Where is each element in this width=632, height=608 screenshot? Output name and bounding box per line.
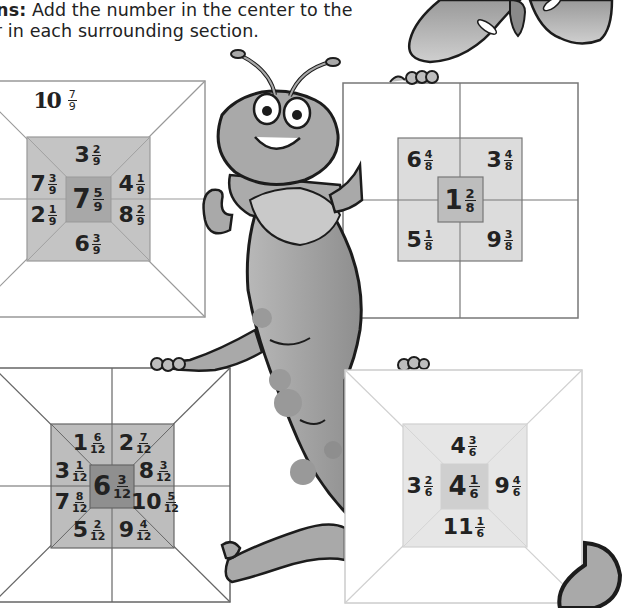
fraction: 28 bbox=[465, 187, 476, 214]
denominator: 9 bbox=[93, 156, 101, 167]
fraction: 112 bbox=[72, 460, 87, 483]
section-number-top-left: 648 bbox=[407, 149, 434, 172]
fraction: 412 bbox=[136, 519, 151, 542]
whole-number: 10 bbox=[33, 89, 60, 111]
denominator: 12 bbox=[72, 472, 87, 483]
numerator: 3 bbox=[504, 229, 514, 241]
whole-number: 2 bbox=[31, 204, 46, 226]
numerator: 3 bbox=[48, 173, 58, 185]
numerator: 2 bbox=[465, 187, 476, 201]
whole-number: 9 bbox=[495, 475, 510, 497]
denominator: 12 bbox=[136, 531, 151, 542]
numerator: 1 bbox=[424, 229, 434, 241]
numerator: 4 bbox=[139, 519, 149, 531]
section-number-top: 436 bbox=[451, 435, 478, 458]
denominator: 6 bbox=[470, 487, 479, 500]
section-number-top: 329 bbox=[75, 144, 102, 167]
denominator: 9 bbox=[137, 185, 145, 196]
denominator: 8 bbox=[505, 161, 513, 172]
butterfly-illustration bbox=[409, 0, 612, 62]
section-number-top-right: 348 bbox=[487, 149, 514, 172]
section-number-top-right: 2712 bbox=[119, 432, 152, 455]
numerator: 2 bbox=[424, 475, 434, 487]
numerator: 6 bbox=[93, 432, 103, 444]
numerator: 3 bbox=[468, 435, 478, 447]
whole-number: 9 bbox=[487, 229, 502, 251]
numerator: 4 bbox=[424, 149, 434, 161]
section-number-lower-left: 219 bbox=[31, 204, 58, 227]
numerator: 2 bbox=[136, 204, 146, 216]
fraction: 712 bbox=[136, 432, 151, 455]
fraction: 48 bbox=[504, 149, 514, 172]
whole-number: 6 bbox=[407, 149, 422, 171]
section-number-right: 946 bbox=[495, 475, 522, 498]
center-number: 759 bbox=[72, 186, 103, 213]
fraction: 38 bbox=[504, 229, 514, 252]
section-number-bottom: 1116 bbox=[443, 516, 485, 539]
denominator: 8 bbox=[466, 201, 475, 214]
instructions-label: ons: bbox=[0, 0, 26, 20]
numerator: 5 bbox=[166, 491, 176, 503]
numerator: 3 bbox=[159, 460, 169, 472]
fraction: 19 bbox=[136, 173, 146, 196]
fraction: 46 bbox=[512, 475, 522, 498]
fraction: 312 bbox=[156, 460, 171, 483]
whole-number: 6 bbox=[93, 473, 111, 499]
numerator: 1 bbox=[136, 173, 146, 185]
fraction: 812 bbox=[72, 491, 87, 514]
fraction: 19 bbox=[48, 204, 58, 227]
numerator: 2 bbox=[92, 144, 102, 156]
section-number-right-upper: 8312 bbox=[139, 460, 172, 483]
fraction: 312 bbox=[113, 473, 131, 500]
denominator: 6 bbox=[513, 487, 521, 498]
fraction: 212 bbox=[90, 519, 105, 542]
whole-number: 3 bbox=[487, 149, 502, 171]
section-number-lower-right: 829 bbox=[119, 204, 146, 227]
section-number-bottom-left: 5212 bbox=[73, 519, 106, 542]
fraction: 16 bbox=[475, 516, 485, 539]
whole-number: 8 bbox=[119, 204, 134, 226]
numerator: 4 bbox=[512, 475, 522, 487]
section-number-bottom: 639 bbox=[75, 233, 102, 256]
whole-number: 2 bbox=[119, 432, 134, 454]
whole-number: 11 bbox=[443, 516, 474, 538]
denominator: 9 bbox=[93, 245, 101, 256]
fraction: 18 bbox=[424, 229, 434, 252]
denominator: 12 bbox=[90, 531, 105, 542]
fraction: 26 bbox=[424, 475, 434, 498]
whole-number: 3 bbox=[55, 460, 70, 482]
section-number-left: 326 bbox=[407, 475, 434, 498]
fraction: 16 bbox=[469, 473, 480, 500]
denominator: 12 bbox=[156, 472, 171, 483]
denominator: 8 bbox=[425, 161, 433, 172]
section-number-bottom-right: 938 bbox=[487, 229, 514, 252]
section-number-bottom-right: 9412 bbox=[119, 519, 152, 542]
whole-number: 7 bbox=[55, 491, 70, 513]
denominator: 6 bbox=[476, 528, 484, 539]
fraction: 36 bbox=[468, 435, 478, 458]
whole-number: 7 bbox=[31, 173, 46, 195]
whole-number: 5 bbox=[407, 229, 422, 251]
denominator: 12 bbox=[164, 503, 179, 514]
denominator: 6 bbox=[425, 487, 433, 498]
fraction: 29 bbox=[92, 144, 102, 167]
instructions-line2: er in each surrounding section. bbox=[0, 21, 353, 42]
instructions-line1: Add the number in the center to the bbox=[26, 0, 352, 20]
numerator: 8 bbox=[75, 491, 85, 503]
denominator: 9 bbox=[94, 200, 103, 213]
numerator: 1 bbox=[75, 460, 85, 472]
numerator: 5 bbox=[93, 186, 104, 200]
whole-number: 1 bbox=[444, 187, 462, 213]
fraction: 79 bbox=[68, 89, 77, 112]
worksheet-art bbox=[0, 0, 632, 608]
section-number-upper-right: 419 bbox=[119, 173, 146, 196]
whole-number: 1 bbox=[73, 432, 88, 454]
whole-number: 5 bbox=[73, 519, 88, 541]
numerator: 1 bbox=[469, 473, 480, 487]
fraction: 39 bbox=[48, 173, 58, 196]
whole-number: 4 bbox=[451, 435, 466, 457]
fraction: 39 bbox=[92, 233, 102, 256]
whole-number: 6 bbox=[75, 233, 90, 255]
denominator: 12 bbox=[113, 487, 131, 500]
fraction: 612 bbox=[90, 432, 105, 455]
